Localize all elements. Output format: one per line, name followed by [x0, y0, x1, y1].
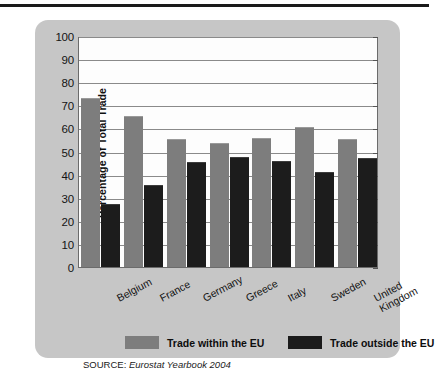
bar-outside-eu — [358, 158, 377, 267]
x-axis-category-label: Sweden — [329, 276, 368, 304]
x-axis-category-labels: BelgiumFranceGermanyGreeceItalySwedenUni… — [70, 290, 435, 340]
legend-swatch-within-eu — [125, 336, 159, 349]
bar-outside-eu — [101, 204, 120, 267]
bar-group — [295, 38, 334, 267]
bar-outside-eu — [230, 157, 249, 267]
x-axis-category-label-line: France — [158, 279, 192, 304]
bar-group — [210, 38, 249, 267]
chart-legend: Trade within the EUTrade outside the EU — [70, 336, 435, 356]
y-axis-tick-label: 50 — [62, 147, 74, 159]
legend-swatch-outside-eu — [288, 336, 322, 349]
bar-group — [81, 38, 120, 267]
y-axis-tick-label: 60 — [62, 123, 74, 135]
bar-within-eu — [295, 127, 314, 267]
legend-label: Trade within the EU — [167, 337, 264, 349]
bars-layer — [79, 38, 377, 267]
x-axis-category-label-line: Greece — [244, 278, 280, 304]
y-axis-tick-label: 10 — [62, 239, 74, 251]
bar-group — [338, 38, 377, 267]
y-axis-tick-label: 30 — [62, 193, 74, 205]
bar-group — [252, 38, 291, 267]
x-axis-category-label-line: Sweden — [329, 276, 368, 304]
x-axis-category-label: Greece — [244, 278, 280, 304]
bar-within-eu — [252, 138, 271, 267]
x-axis-category-label-line: Italy — [286, 285, 308, 304]
top-divider-rule — [0, 4, 429, 7]
x-axis-category-label-line: Germany — [201, 274, 245, 304]
bar-within-eu — [338, 139, 357, 267]
x-axis-category-label: Belgium — [115, 276, 154, 304]
legend-item: Trade outside the EU — [288, 336, 434, 349]
y-axis-tick-label: 0 — [68, 262, 74, 274]
bar-group — [124, 38, 163, 267]
bar-within-eu — [124, 116, 143, 267]
bar-outside-eu — [144, 185, 163, 267]
bar-outside-eu — [272, 161, 291, 267]
bar-outside-eu — [187, 162, 206, 267]
x-axis-category-label: Italy — [286, 285, 308, 304]
source-label: SOURCE: — [83, 359, 126, 370]
x-axis-category-label-line: Belgium — [115, 276, 154, 304]
legend-label: Trade outside the EU — [330, 337, 434, 349]
chart-panel: 0102030405060708090100 Percentage of Tot… — [35, 20, 400, 358]
y-axis-tick-label: 70 — [62, 100, 74, 112]
y-axis-tick-label: 80 — [62, 77, 74, 89]
bar-within-eu — [167, 139, 186, 267]
x-axis-category-label: Germany — [201, 274, 245, 304]
bar-within-eu — [210, 143, 229, 267]
y-axis-tick-mark — [373, 268, 378, 269]
y-axis-tick-label: 90 — [62, 54, 74, 66]
bar-group — [167, 38, 206, 267]
legend-item: Trade within the EU — [125, 336, 264, 349]
y-axis-tick-label: 40 — [62, 170, 74, 182]
x-axis-category-label: France — [158, 279, 192, 304]
bar-within-eu — [81, 98, 100, 267]
y-axis-tick-label: 20 — [62, 216, 74, 228]
y-axis-tick-label: 100 — [55, 31, 74, 43]
x-axis-category-label: UnitedKingdom — [372, 275, 419, 315]
source-reference: Eurostat Yearbook 2004 — [129, 359, 231, 370]
bar-outside-eu — [315, 172, 334, 267]
chart-source-note: SOURCE: Eurostat Yearbook 2004 — [83, 359, 231, 370]
